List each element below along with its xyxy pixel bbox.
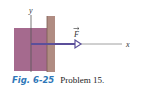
x-axis-label: x (125, 40, 130, 49)
force-arrowhead-icon (75, 40, 81, 48)
figure-diagram: y x F (0, 0, 143, 75)
y-axis-label: y (28, 6, 33, 15)
figure-caption: Fig. 6-25Problem 15. (12, 75, 104, 85)
caption-text: Problem 15. (60, 75, 104, 85)
figure-number: Fig. 6-25 (12, 75, 54, 85)
force-label: F (73, 30, 79, 39)
